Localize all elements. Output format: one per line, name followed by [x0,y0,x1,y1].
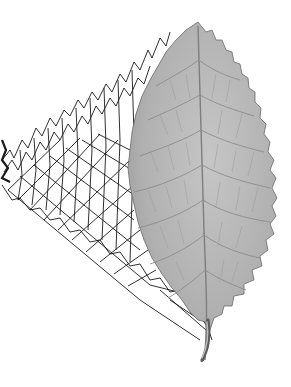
mesh-dense-cluster [2,140,10,182]
leaf [128,22,277,362]
leaf-mesh-rendering [0,0,291,387]
